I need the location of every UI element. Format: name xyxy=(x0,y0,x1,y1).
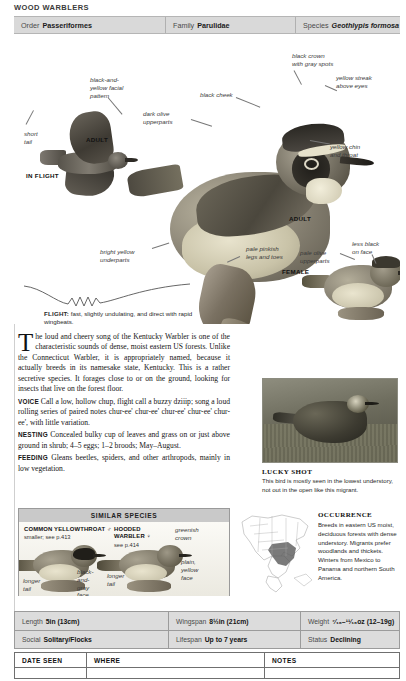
range-map xyxy=(238,512,314,596)
callout-black-crown-with-gray-spots: black crown with gray spots xyxy=(292,52,354,68)
callout-yellowthroat-longer-tail: longer tail xyxy=(23,577,47,593)
taxonomy-family-label: Family xyxy=(173,21,194,30)
callout-bright-yellow-underparts: bright yellow underparts xyxy=(100,248,156,264)
feeding-text: Gleans beetles, spiders, and other arthr… xyxy=(18,453,230,472)
callout-dark-olive-upperparts: dark olive upperparts xyxy=(143,110,191,126)
occurrence-text: Breeds in eastern US moist, deciduous fo… xyxy=(318,521,400,583)
field-guide-page: WOOD WARBLERS Order Passeriformes Family… xyxy=(0,0,406,681)
voice-label: VOICE xyxy=(18,398,39,405)
callout-hooded-longer-tail: longer tail xyxy=(107,572,131,588)
stat-status: Status Declining xyxy=(301,631,399,648)
lucky-shot-caption: This bird is mostly seen in the lowest u… xyxy=(262,477,402,494)
log-header-notes: NOTES xyxy=(265,653,399,667)
stat-wingspan-value: 8½in (21cm) xyxy=(209,618,248,625)
feeding-paragraph: FEEDING Gleans beetles, spiders, and oth… xyxy=(18,453,230,474)
taxonomy-family-value: Parulidae xyxy=(197,21,229,30)
stat-weight-value: ⁷⁄₁₆–¹¹⁄₁₆oz (12–19g) xyxy=(332,618,394,625)
stat-lifespan-label: Lifespan xyxy=(176,636,202,643)
similar-species-1-name: COMMON YELLOWTHROAT ♂ xyxy=(24,526,120,533)
bird-illustration-in-flight xyxy=(40,112,136,196)
taxonomy-order-value: Passeriformes xyxy=(42,21,92,30)
log-field-date-seen[interactable] xyxy=(15,668,87,679)
taxonomy-order: Order Passeriformes xyxy=(14,17,166,33)
yellowthroat-black-mask xyxy=(73,548,95,560)
voice-text: Call a low, hollow chup, flight call a b… xyxy=(18,397,230,427)
taxonomy-species: Species Geothlypis formosa xyxy=(296,17,400,33)
photo-bird-bill xyxy=(365,402,379,405)
lucky-shot-photo xyxy=(262,378,398,463)
callout-black-and-yellow-facial-pattern: black-and- yellow facial pattern xyxy=(90,76,148,99)
intro-text: he loud and cheery song of the Kentucky … xyxy=(18,332,230,393)
sighting-log-header: DATE SEEN WHERE NOTES xyxy=(15,653,399,668)
running-head: WOOD WARBLERS xyxy=(14,3,89,12)
stat-lifespan-value: Up to 7 years xyxy=(205,636,248,643)
female-bird-underparts xyxy=(332,283,384,309)
stat-lifespan: Lifespan Up to 7 years xyxy=(169,631,301,648)
callout-pale-pinkish-legs-and-toes: pale pinkish legs and toes xyxy=(246,245,296,261)
log-header-date-seen: DATE SEEN xyxy=(15,653,87,667)
occurrence-title: OCCURRENCE xyxy=(318,511,372,519)
stat-social-value: Solitary/Flocks xyxy=(44,636,92,643)
similar-species-2-name: HOODED WARBLER ♀ xyxy=(114,526,160,541)
similar-species-heading: SIMILAR SPECIES xyxy=(19,509,229,522)
callout-yellow-streak-above-eyes: yellow streak above eyes xyxy=(336,74,394,90)
similar-species-content: COMMON YELLOWTHROAT ♂ smaller; see p.413… xyxy=(19,522,229,596)
taxonomy-family: Family Parulidae xyxy=(166,17,296,33)
callout-short-tail: short tail xyxy=(24,130,58,146)
flight-path-diagram xyxy=(22,282,192,308)
measurements-table: Length 5in (13cm) Wingspan 8½in (21cm) W… xyxy=(14,611,400,649)
stat-weight-label: Weight xyxy=(308,618,329,625)
tag-in-flight: IN FLIGHT xyxy=(26,172,59,179)
callout-yellowthroat-black-and-gray-face: black- and- gray face xyxy=(77,568,99,596)
stat-status-value: Declining xyxy=(330,636,361,643)
adult-bird-throat xyxy=(306,178,342,204)
measurements-row-1: Length 5in (13cm) Wingspan 8½in (21cm) W… xyxy=(15,612,399,630)
flight-note: FLIGHT: fast, slightly undulating, and d… xyxy=(44,310,204,327)
intro-paragraph: The loud and cheery song of the Kentucky… xyxy=(18,332,230,395)
tag-adult-flight: ADULT xyxy=(86,136,108,143)
nesting-text: Concealed bulky cup of leaves and grass … xyxy=(18,430,230,449)
lucky-shot-title: LUCKY SHOT xyxy=(262,468,312,476)
callout-hooded-plain-yellow-face: plain, yellow face xyxy=(181,558,211,581)
female-bird-bill xyxy=(398,271,400,275)
nesting-label: NESTING xyxy=(18,431,48,438)
callout-pale-olive-upperparts: pale olive upperparts xyxy=(300,249,342,265)
stat-length-label: Length xyxy=(22,618,43,625)
stat-social-label: Social xyxy=(22,636,41,643)
log-field-notes[interactable] xyxy=(265,668,399,679)
drop-cap: T xyxy=(18,332,35,352)
feeding-label: FEEDING xyxy=(18,454,48,461)
similar-species-panel: SIMILAR SPECIES COMMON YELLOWTHROAT ♂ sm… xyxy=(18,508,230,596)
taxonomy-species-label: Species xyxy=(303,21,329,30)
stat-length-value: 5in (13cm) xyxy=(46,618,80,625)
sighting-log-entry-row[interactable] xyxy=(15,668,399,679)
voice-paragraph: VOICE Call a low, hollow chup, flight ca… xyxy=(18,397,230,428)
adult-bird-eye xyxy=(304,158,319,170)
tag-female: FEMALE xyxy=(282,268,309,275)
stat-wingspan: Wingspan 8½in (21cm) xyxy=(169,612,301,630)
hooded-warbler-perch xyxy=(127,580,171,592)
stat-social: Social Solitary/Flocks xyxy=(15,631,169,648)
tag-adult-perched: ADULT xyxy=(289,215,311,222)
yellowthroat-bill xyxy=(93,554,106,557)
measurements-row-2: Social Solitary/Flocks Lifespan Up to 7 … xyxy=(15,630,399,648)
callout-hooded-greenish-crown: greenish crown xyxy=(175,526,211,542)
nesting-paragraph: NESTING Concealed bulky cup of leaves an… xyxy=(18,430,230,451)
female-bird-perch xyxy=(338,307,384,320)
species-account-text: The loud and cheery song of the Kentucky… xyxy=(18,332,230,476)
sighting-log-table[interactable]: DATE SEEN WHERE NOTES xyxy=(14,652,400,679)
taxonomy-bar: Order Passeriformes Family Parulidae Spe… xyxy=(14,16,400,34)
flight-note-label: FLIGHT: xyxy=(44,310,69,317)
hooded-warbler-bill xyxy=(179,554,192,557)
callout-yellow-chin-and-throat: yellow chin and throat xyxy=(330,143,380,159)
stat-wingspan-label: Wingspan xyxy=(176,618,206,625)
stat-length: Length 5in (13cm) xyxy=(15,612,169,630)
stat-weight: Weight ⁷⁄₁₆–¹¹⁄₁₆oz (12–19g) xyxy=(301,612,399,630)
taxonomy-species-value: Geothlypis formosa xyxy=(332,21,400,30)
log-header-where: WHERE xyxy=(87,653,265,667)
stat-status-label: Status xyxy=(308,636,327,643)
flight-bird-bill xyxy=(125,158,138,162)
taxonomy-order-label: Order xyxy=(21,21,39,30)
log-field-where[interactable] xyxy=(87,668,265,679)
